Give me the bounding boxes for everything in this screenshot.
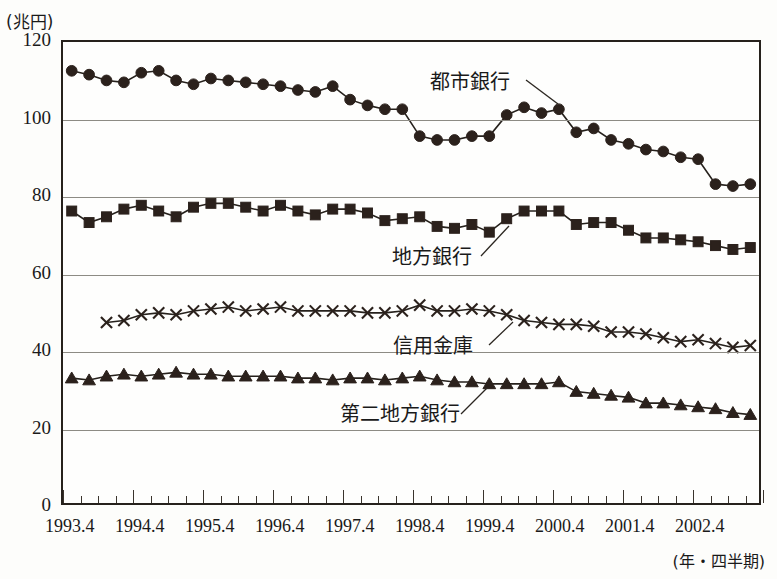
y-tick-label: 80 — [0, 185, 51, 204]
x-tick-minor — [361, 496, 362, 503]
data-point-square — [171, 212, 181, 222]
data-point-square — [67, 206, 77, 216]
x-tick-major — [483, 490, 484, 503]
series-circle — [66, 65, 755, 191]
data-point-triangle — [65, 372, 78, 383]
data-point-circle — [136, 67, 147, 78]
data-point-square — [589, 218, 599, 228]
x-tick-major — [273, 490, 274, 503]
data-point-circle — [327, 81, 338, 92]
x-tick-major — [693, 490, 694, 503]
x-tick-minor — [501, 496, 502, 503]
data-point-square — [502, 214, 512, 224]
annotation-regional-banks: 地方銀行 — [392, 241, 472, 270]
annotation-shinkin-banks: 信用金庫 — [393, 330, 473, 359]
data-point-square — [119, 204, 129, 214]
y-tick-label: 40 — [0, 340, 51, 359]
data-point-triangle — [118, 368, 131, 379]
x-tick-major — [63, 490, 64, 503]
x-tick-minor — [728, 496, 729, 503]
x-tick-minor — [658, 496, 659, 503]
data-point-square — [258, 206, 268, 216]
data-point-square — [223, 198, 233, 208]
x-tick-minor — [81, 496, 82, 503]
x-tick-minor — [606, 496, 607, 503]
data-point-square — [84, 218, 94, 228]
data-point-circle — [606, 135, 617, 146]
x-tick-minor — [466, 496, 467, 503]
x-tick-minor — [571, 496, 572, 503]
data-point-circle — [293, 85, 304, 96]
data-point-square — [328, 204, 338, 214]
data-point-circle — [641, 144, 652, 155]
data-point-square — [606, 218, 616, 228]
data-point-circle — [467, 131, 478, 142]
data-point-cross — [710, 338, 721, 349]
data-point-circle — [658, 146, 669, 157]
data-point-square — [467, 220, 477, 230]
y-tick-label: 20 — [0, 418, 51, 437]
data-point-square — [293, 206, 303, 216]
data-point-square — [380, 216, 390, 226]
data-point-square — [432, 221, 442, 231]
data-point-square — [711, 241, 721, 251]
data-point-circle — [623, 138, 634, 149]
data-point-circle — [414, 131, 425, 142]
data-point-circle — [84, 69, 95, 80]
x-tick-major — [763, 490, 764, 503]
plot-area — [61, 40, 761, 505]
annotation-second-regional-banks: 第二地方銀行 — [340, 398, 460, 427]
x-tick-minor — [378, 496, 379, 503]
data-point-circle — [258, 79, 269, 90]
gridline — [63, 120, 759, 121]
x-tick-major — [343, 490, 344, 503]
data-point-circle — [223, 75, 234, 86]
data-point-circle — [206, 73, 217, 84]
series-layer — [63, 42, 759, 503]
data-point-circle — [484, 131, 495, 142]
x-tick-minor — [588, 496, 589, 503]
x-tick-minor — [711, 496, 712, 503]
data-point-square — [363, 208, 373, 218]
x-tick-minor — [308, 496, 309, 503]
data-point-circle — [554, 104, 565, 115]
x-tick-major — [203, 490, 204, 503]
gridline — [63, 197, 759, 198]
data-point-circle — [675, 152, 686, 163]
data-point-circle — [728, 181, 739, 192]
annotation-city-banks: 都市銀行 — [430, 66, 510, 95]
x-tick-minor — [221, 496, 222, 503]
data-point-square — [693, 237, 703, 247]
data-point-square — [206, 198, 216, 208]
data-point-circle — [345, 94, 356, 105]
chart-root: (兆円) 020406080100120 1993.41994.41995.41… — [0, 0, 777, 579]
x-tick-minor — [98, 496, 99, 503]
data-point-square — [728, 244, 738, 254]
x-tick-minor — [448, 496, 449, 503]
data-point-square — [189, 202, 199, 212]
data-point-circle — [153, 65, 164, 76]
gridline — [63, 275, 759, 276]
data-point-triangle — [553, 376, 566, 387]
data-point-square — [310, 210, 320, 220]
data-point-square — [450, 223, 460, 233]
data-point-circle — [380, 104, 391, 115]
data-point-circle — [275, 81, 286, 92]
data-point-square — [641, 233, 651, 243]
x-tick-minor — [396, 496, 397, 503]
data-point-square — [624, 225, 634, 235]
data-point-square — [658, 233, 668, 243]
data-point-circle — [66, 65, 77, 76]
x-tick-minor — [536, 496, 537, 503]
x-tick-major — [623, 490, 624, 503]
data-point-square — [276, 200, 286, 210]
data-point-circle — [101, 75, 112, 86]
x-tick-label: 2002.4 — [655, 516, 745, 537]
y-tick-label: 0 — [0, 495, 51, 514]
data-point-circle — [188, 79, 199, 90]
data-point-circle — [310, 87, 321, 98]
data-point-square — [102, 212, 112, 222]
data-point-square — [397, 214, 407, 224]
data-point-square — [136, 200, 146, 210]
x-tick-major — [133, 490, 134, 503]
